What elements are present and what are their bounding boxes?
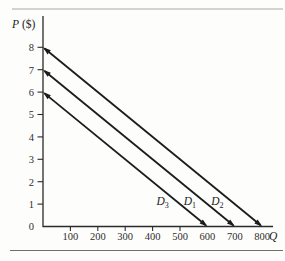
demand-line-d1 xyxy=(45,71,234,225)
y-tick-label: 1 xyxy=(29,199,34,210)
y-tick-label: 2 xyxy=(29,177,34,188)
x-axis-label: Q xyxy=(269,230,278,242)
y-tick-label: 3 xyxy=(29,154,34,165)
demand-line-d3 xyxy=(45,93,206,225)
figure: 012345678100200300400500600700800P ($)QD… xyxy=(0,0,285,261)
demand-line-d2 xyxy=(45,49,261,226)
y-tick-label: 4 xyxy=(29,132,35,143)
x-tick-label: 200 xyxy=(90,231,106,242)
x-tick-label: 100 xyxy=(63,231,79,242)
demand-chart: 012345678100200300400500600700800P ($)QD… xyxy=(0,0,285,261)
x-tick-label: 300 xyxy=(117,231,133,242)
x-tick-label: 600 xyxy=(200,231,216,242)
y-tick-label: 0 xyxy=(29,221,34,232)
y-axis-label: P ($) xyxy=(11,18,35,31)
y-tick-label: 8 xyxy=(29,42,34,53)
y-tick-label: 5 xyxy=(29,109,34,120)
x-tick-label: 700 xyxy=(227,231,243,242)
y-tick-label: 7 xyxy=(29,65,34,76)
curve-label-d3: D3 xyxy=(155,195,168,210)
x-tick-label: 500 xyxy=(172,231,188,242)
x-tick-label: 400 xyxy=(145,231,161,242)
y-tick-label: 6 xyxy=(29,87,34,98)
x-tick-label: 800 xyxy=(254,231,270,242)
